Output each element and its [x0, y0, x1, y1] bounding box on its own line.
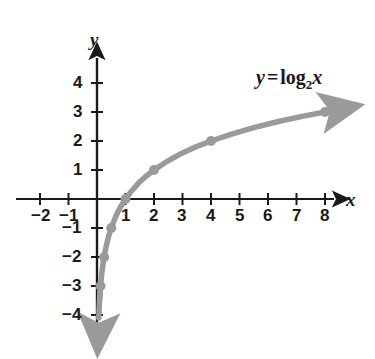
log2-curve-tail: [99, 291, 100, 318]
y-tick-label--1: −1: [62, 219, 81, 236]
data-point: [206, 136, 216, 146]
x-tick-label-1: 1: [121, 207, 130, 224]
data-point: [121, 194, 131, 204]
function-equation-label: y=log2x: [256, 67, 322, 91]
y-axis-label: y: [90, 30, 98, 49]
x-tick-label-8: 8: [320, 207, 329, 224]
data-point: [106, 223, 116, 233]
y-tick-label-1: 1: [73, 161, 82, 178]
y-tick-label--4: −4: [62, 306, 81, 323]
x-tick-label-7: 7: [292, 207, 301, 224]
x-tick-label-4: 4: [206, 207, 215, 224]
x-tick-label--2: −2: [31, 207, 50, 224]
x-tick-label-3: 3: [177, 207, 186, 224]
x-axis-label: x: [346, 190, 356, 209]
equation-lhs: y: [256, 66, 265, 88]
equation-operator: =: [265, 66, 280, 88]
data-point: [99, 252, 109, 262]
plot-canvas: [0, 0, 375, 359]
y-tick-label-4: 4: [73, 74, 82, 91]
y-tick-label--3: −3: [62, 277, 81, 294]
data-point: [96, 281, 106, 291]
x-tick-label-2: 2: [149, 207, 158, 224]
y-tick-label-3: 3: [73, 103, 82, 120]
y-tick-label-2: 2: [73, 132, 82, 149]
data-point: [149, 165, 159, 175]
equation-argument: x: [312, 66, 322, 88]
equation-function-name: log: [280, 66, 306, 88]
logarithm-graph-figure: −2 −1 1 2 3 4 5 6 7 8 4 3 2 1 −1 −2 −3 −…: [0, 0, 375, 359]
y-tick-label--2: −2: [62, 248, 81, 265]
x-tick-label-6: 6: [263, 207, 272, 224]
data-point: [320, 107, 330, 117]
x-tick-label-5: 5: [235, 207, 244, 224]
